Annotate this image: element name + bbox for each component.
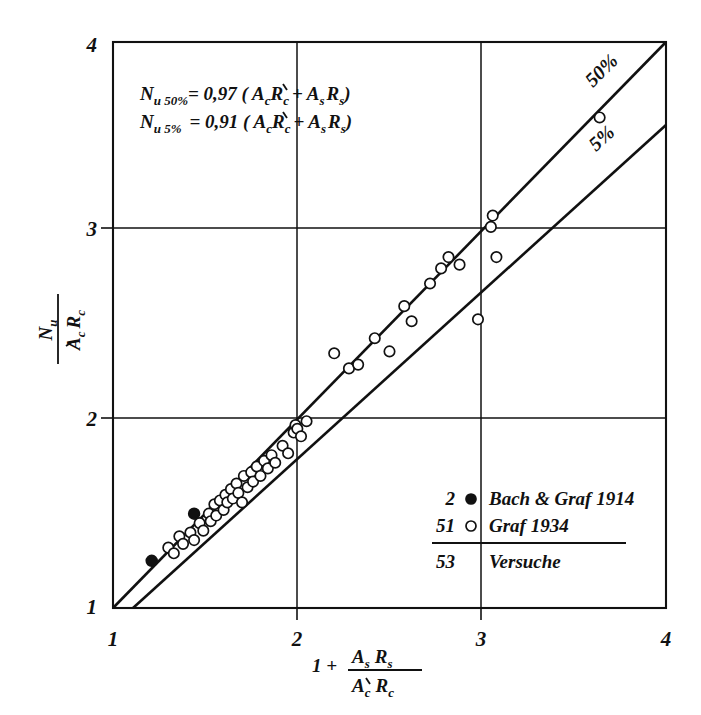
xlab-den-a: A	[351, 675, 365, 696]
y-tick-label-1: 1	[87, 595, 98, 619]
eq2-a2: A	[307, 111, 321, 132]
chart-canvas: 4 3 2 1 1 2 3 4 50% 5% Nu 50%= 0,97	[0, 0, 701, 715]
data-point	[296, 431, 306, 441]
y-tick-label-2: 2	[86, 407, 98, 431]
eq1-plus: +	[292, 83, 303, 104]
legend-total-label: Versuche	[489, 551, 561, 572]
ylab-den-r-sub: c	[73, 310, 88, 316]
eq2-plus: +	[293, 111, 304, 132]
xlab-num-r-sub: s	[386, 656, 392, 671]
legend-total-count: 53	[436, 551, 455, 572]
y-axis-label: Nu AcRc	[35, 294, 88, 364]
data-point	[488, 210, 498, 220]
x-tick-label-3: 3	[475, 627, 487, 651]
eq2-r2: R	[327, 111, 341, 132]
xlab-den-r: R	[374, 675, 388, 696]
y-axis-tick-labels: 4 3 2 1	[86, 33, 98, 619]
xlab-den-a-sub: c	[365, 685, 371, 700]
data-point	[178, 539, 188, 549]
eq2-rhs: = 0,91 ( A	[190, 111, 267, 133]
xlab-num-a-sub: s	[364, 656, 370, 671]
legend: 2 Bach & Graf 1914 51 Graf 1934 53 Versu…	[432, 488, 634, 572]
x-axis-label-prime-mark	[366, 678, 370, 684]
eq2-a2-sub: s	[320, 121, 326, 136]
x-axis-label: 1 + AsRs AcRc	[312, 646, 422, 700]
data-point	[283, 448, 293, 458]
eq2-close: )	[344, 111, 352, 133]
data-point	[353, 359, 363, 369]
x-axis-tick-labels: 1 2 3 4	[108, 627, 672, 651]
y-tick-label-3: 3	[86, 217, 98, 241]
eq1-prime-mark	[283, 84, 287, 90]
data-point	[329, 348, 339, 358]
data-point	[198, 525, 208, 535]
x-tick-label-2: 2	[291, 627, 303, 651]
x-axis-label-denominator: AcRc	[351, 675, 394, 700]
ylab-den-r: R	[63, 316, 84, 330]
legend-label-1: Graf 1934	[489, 515, 569, 536]
eq2-n: N	[139, 111, 155, 132]
legend-label-0: Bach & Graf 1914	[488, 488, 634, 509]
x-axis-label-lead: 1 +	[312, 655, 337, 676]
legend-count-1: 51	[436, 515, 455, 536]
data-point	[270, 458, 280, 468]
data-point	[491, 252, 501, 262]
x-tick-label-4: 4	[660, 627, 672, 651]
eq1-a2: A	[306, 83, 320, 104]
xlab-num-r: R	[374, 646, 388, 667]
chart-figure: 4 3 2 1 1 2 3 4 50% 5% Nu 50%= 0,97	[0, 0, 701, 715]
eq1-r2: R	[326, 83, 340, 104]
xlab-den-r-sub: c	[388, 685, 394, 700]
ylab-den-a-sub: c	[73, 331, 88, 337]
data-point	[370, 333, 380, 343]
legend-marker-open-circle-icon	[466, 521, 476, 531]
x-axis-label-numerator: AsRs	[351, 646, 393, 671]
eq1-n: N	[139, 83, 155, 104]
data-point	[436, 263, 446, 273]
eq1-close: )	[342, 83, 350, 105]
xlab-num-a: A	[351, 646, 365, 667]
data-point	[454, 259, 464, 269]
legend-count-0: 2	[445, 488, 456, 509]
fit-line-label-50pct: 50%	[580, 49, 621, 90]
data-point	[486, 222, 496, 232]
data-point	[384, 346, 394, 356]
ylab-num-n: N	[35, 325, 56, 341]
eq1-rhs: = 0,97 ( A	[188, 83, 265, 105]
data-point	[237, 497, 247, 507]
eq1-r1: R	[269, 83, 283, 104]
eq2-r1-sub: c	[285, 121, 291, 136]
data-point	[301, 416, 311, 426]
data-point	[443, 252, 453, 262]
equation-line-1: Nu 50%= 0,97 ( AcRc+AsRs)	[139, 83, 351, 108]
y-tick-label-4: 4	[86, 33, 98, 57]
fit-line-label-5pct: 5%	[584, 121, 619, 155]
data-point	[169, 548, 179, 558]
equation-annotation: Nu 50%= 0,97 ( AcRc+AsRs) Nu 5%= 0,91 ( …	[139, 83, 352, 136]
data-point	[473, 314, 483, 324]
x-tick-label-1: 1	[108, 627, 119, 651]
legend-marker-filled-circle-icon	[466, 494, 476, 504]
ylab-den-a: A	[63, 337, 84, 351]
eq1-r1-sub: c	[283, 93, 289, 108]
y-axis-label-numerator: Nu	[35, 320, 60, 342]
data-point	[146, 555, 157, 566]
eq2-r1: R	[271, 111, 285, 132]
data-point	[406, 316, 416, 326]
data-point	[425, 278, 435, 288]
fit-line-5pct	[133, 125, 666, 608]
equation-line-2: Nu 5%= 0,91 ( AcRc+AsRs)	[139, 111, 352, 136]
fit-line-labels: 50% 5%	[580, 49, 621, 155]
data-point	[189, 535, 199, 545]
eq2-n-sub: u 5%	[154, 121, 182, 136]
eq1-n-sub: u 50%	[154, 93, 188, 108]
data-point	[399, 301, 409, 311]
eq1-a2-sub: s	[318, 93, 324, 108]
data-point	[594, 112, 604, 122]
